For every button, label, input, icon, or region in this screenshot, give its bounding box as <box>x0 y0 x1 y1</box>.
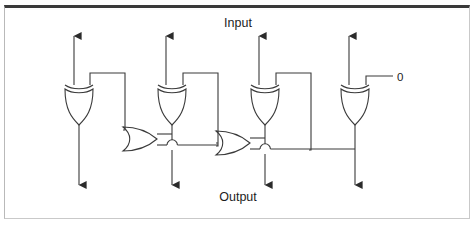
wire-xor2-right-input-branch <box>183 73 218 146</box>
wire-hop-1 <box>167 140 177 145</box>
gate-or-2 <box>216 131 250 155</box>
wire-xor3-right-input-branch <box>276 73 311 150</box>
gate-or-1 <box>123 127 157 151</box>
wire-xor1-right-input-branch <box>90 73 125 130</box>
wire-hop-2 <box>260 144 270 149</box>
gate-xor-1 <box>65 85 93 125</box>
output-label: Output <box>0 190 476 204</box>
gate-xor-3 <box>251 85 279 125</box>
figure-screenshot: Input Output 0 <box>0 0 476 226</box>
input-label: Input <box>0 16 476 30</box>
input-wires <box>74 36 349 85</box>
constant-zero-label: 0 <box>397 71 403 83</box>
wire-constant-zero <box>366 76 393 85</box>
gate-xor-4 <box>341 85 369 125</box>
gate-xor-2 <box>158 85 186 125</box>
